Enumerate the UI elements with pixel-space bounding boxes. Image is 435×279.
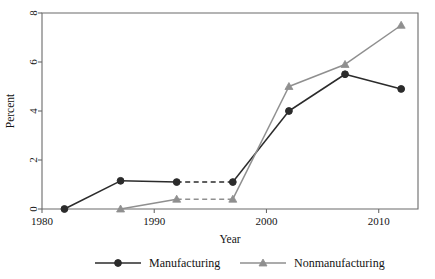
y-tick-label: 6: [27, 59, 39, 65]
y-tick-label: 0: [27, 206, 39, 212]
data-point-marker: [61, 206, 68, 213]
chart-background: [0, 0, 435, 279]
data-point-marker: [229, 179, 236, 186]
data-point-marker: [117, 177, 124, 184]
legend-label: Nonmanufacturing: [294, 256, 385, 270]
data-point-marker: [398, 86, 405, 93]
chart-figure: 02468 1980199020002010 Percent Year Manu…: [0, 0, 435, 279]
x-axis-title: Year: [219, 233, 240, 245]
data-point-marker: [286, 108, 293, 115]
y-axis-title: Percent: [4, 93, 16, 128]
x-tick-label: 2010: [368, 215, 391, 227]
x-tick-label: 1990: [143, 215, 166, 227]
line-chart: 02468 1980199020002010 Percent Year Manu…: [0, 0, 435, 279]
y-tick-label: 2: [27, 157, 39, 163]
y-tick-label: 8: [27, 10, 39, 16]
x-tick-label: 1980: [31, 215, 54, 227]
x-tick-label: 2000: [255, 215, 278, 227]
data-point-marker: [115, 260, 122, 267]
y-tick-label: 4: [27, 108, 39, 114]
legend-label: Manufacturing: [149, 256, 220, 270]
data-point-marker: [342, 71, 349, 78]
data-point-marker: [173, 179, 180, 186]
